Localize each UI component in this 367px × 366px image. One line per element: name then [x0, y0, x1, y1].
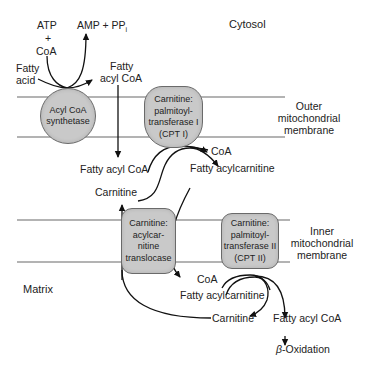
fatty-acyl-coa-mid-label: Fatty acyl CoA — [80, 163, 148, 175]
fatty-acid-label: Fatty acid — [16, 62, 39, 86]
fatty-acylcarnitine-matrix-label: Fatty acylcarnitine — [180, 289, 265, 301]
outer-membrane-line-2: mitochondrial — [268, 112, 350, 124]
enzyme-label: (CPT II) — [234, 253, 265, 265]
coa-cpt2-label: CoA — [197, 273, 217, 285]
fatty-acyl-coa-top-label: Fatty acyl CoA — [100, 60, 142, 84]
plus-label: + — [45, 32, 51, 44]
enzyme-label: synthetase — [46, 116, 90, 128]
carnitine-matrix-label: Carnitine — [212, 312, 254, 324]
outer-membrane-line-3: membrane — [268, 124, 350, 136]
carnitine-in-arc — [138, 148, 218, 201]
cpt2-enzyme: Carnitine: palmitoyl- transferase II (CP… — [221, 213, 279, 269]
beta-oxidation-label: β-Oxidation — [276, 343, 330, 355]
enzyme-label: palmitoyl- — [231, 230, 270, 242]
ppi-subscript: i — [126, 26, 128, 33]
coa-cpt1-label: CoA — [211, 145, 231, 157]
inner-membrane-label: Inner mitochondrial membrane — [281, 225, 363, 261]
coa-top-label: CoA — [36, 45, 56, 57]
cytosol-label: Cytosol — [229, 18, 266, 30]
matrix-label: Matrix — [23, 283, 53, 295]
enzyme-label: acylcar- — [133, 230, 165, 242]
outer-membrane-label: Outer mitochondrial membrane — [268, 100, 350, 136]
enzyme-label: transferase I — [148, 117, 198, 129]
enzyme-label: nitine — [138, 241, 160, 253]
fatty-acid-line-1: Fatty — [16, 62, 39, 74]
inner-membrane-line-3: membrane — [281, 249, 363, 261]
enzyme-label: Carnitine: — [129, 218, 168, 230]
carnitine-mid-label: Carnitine — [95, 186, 137, 198]
enzyme-label: palmitoyl- — [154, 106, 193, 118]
enzyme-label: Carnitine: — [231, 218, 270, 230]
enzyme-label: Acyl CoA — [49, 105, 86, 117]
enzyme-label: Carnitine: — [154, 94, 193, 106]
atp-label: ATP — [37, 19, 57, 31]
carnitine-shuttle-diagram: Cytosol Matrix Outer mitochondrial membr… — [0, 0, 367, 366]
enzyme-label: (CPT I) — [159, 129, 188, 141]
inner-membrane-line-1: Inner — [281, 225, 363, 237]
amp-ppi-label: AMP + PPi — [77, 19, 127, 36]
enzyme-label: transferase II — [224, 241, 277, 253]
cpt1-enzyme: Carnitine: palmitoyl- transferase I (CPT… — [144, 86, 203, 148]
fatty-acylcarnitine-mid-label: Fatty acylcarnitine — [190, 162, 275, 174]
acyl-coa-synthetase: Acyl CoA synthetase — [40, 88, 96, 144]
inner-membrane-line-2: mitochondrial — [281, 237, 363, 249]
fatty-acyl-coa-line-2: acyl CoA — [100, 72, 142, 84]
translocase-enzyme: Carnitine: acylcar- nitine translocase — [121, 208, 176, 274]
amp-ppi-text: AMP + PP — [77, 19, 126, 31]
outer-membrane-line-1: Outer — [268, 100, 350, 112]
enzyme-label: translocase — [125, 253, 171, 265]
fatty-acyl-coa-matrix-label: Fatty acyl CoA — [273, 312, 341, 324]
fatty-acid-line-2: acid — [16, 74, 39, 86]
beta-oxidation-text: -Oxidation — [282, 343, 330, 355]
fatty-acyl-coa-line-1: Fatty — [100, 60, 142, 72]
amp-ppi-arrow — [67, 34, 86, 88]
atp-coa-arc — [47, 56, 67, 88]
